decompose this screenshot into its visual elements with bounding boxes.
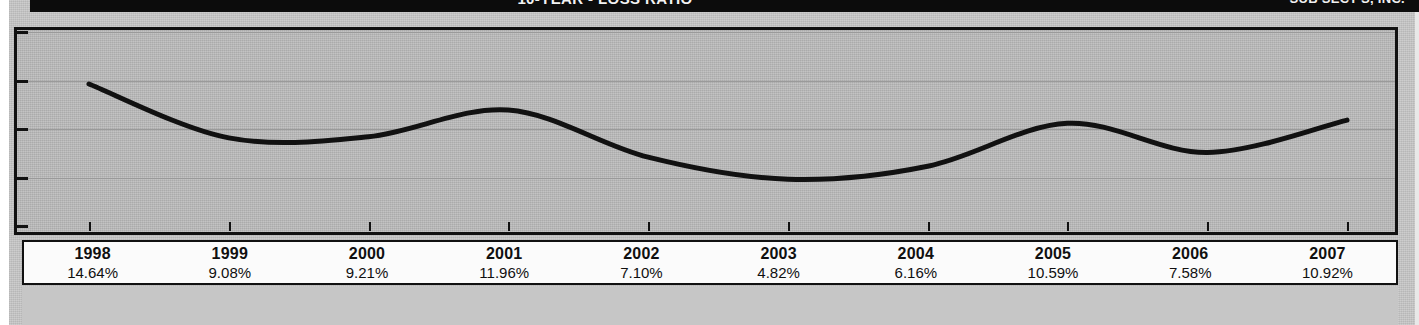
right-page-margin (1415, 0, 1419, 325)
value-label: 9.21% (346, 264, 389, 281)
loss-ratio-line-chart (17, 30, 1395, 232)
year-label: 2005 (1035, 245, 1071, 263)
value-label: 10.59% (1028, 264, 1079, 281)
x-axis-ticks (90, 222, 1348, 231)
table-row: 1998 14.64% (24, 242, 161, 283)
year-label: 2002 (623, 245, 659, 263)
table-row: 2005 10.59% (984, 242, 1121, 283)
scanned-report-page: 10-YEAR - LOSS RATIO SUB SECT'S, INC. 19… (0, 0, 1419, 325)
value-label: 10.92% (1302, 264, 1353, 281)
table-row: 2000 9.21% (298, 242, 435, 283)
chart-gridlines (17, 33, 1395, 179)
table-row: 2007 10.92% (1259, 242, 1396, 283)
year-label: 2007 (1309, 245, 1345, 263)
year-value-table: 1998 14.64% 1999 9.08% 2000 9.21% 2001 1… (22, 240, 1398, 285)
year-label: 2006 (1172, 245, 1208, 263)
y-axis-ticks (17, 33, 28, 227)
year-label: 2004 (898, 245, 934, 263)
chart-plot-area (14, 27, 1398, 235)
value-label: 7.58% (1169, 264, 1212, 281)
value-label: 11.96% (479, 264, 529, 281)
value-label: 6.16% (895, 264, 938, 281)
year-label: 2003 (760, 245, 796, 263)
value-label: 14.64% (67, 264, 118, 281)
value-label: 9.08% (209, 264, 252, 281)
table-row: 1999 9.08% (161, 242, 298, 283)
value-label: 7.10% (620, 264, 663, 281)
year-label: 2000 (349, 245, 385, 263)
company-name-label: SUB SECT'S, INC. (1289, 0, 1405, 12)
year-label: 1999 (212, 245, 248, 263)
year-label: 2001 (486, 245, 522, 263)
table-row: 2001 11.96% (436, 242, 573, 283)
table-row: 2002 7.10% (573, 242, 710, 283)
report-header-bar: 10-YEAR - LOSS RATIO SUB SECT'S, INC. (30, 0, 1419, 12)
table-row: 2003 4.82% (710, 242, 847, 283)
loss-ratio-data-line (89, 84, 1347, 179)
table-row: 2004 6.16% (847, 242, 984, 283)
left-page-margin (0, 0, 9, 325)
value-label: 4.82% (757, 264, 800, 281)
table-row: 2006 7.58% (1122, 242, 1259, 283)
year-label: 1998 (74, 245, 110, 263)
page-bottom-strip (22, 287, 1398, 325)
page-title: 10-YEAR - LOSS RATIO (30, 0, 1180, 12)
